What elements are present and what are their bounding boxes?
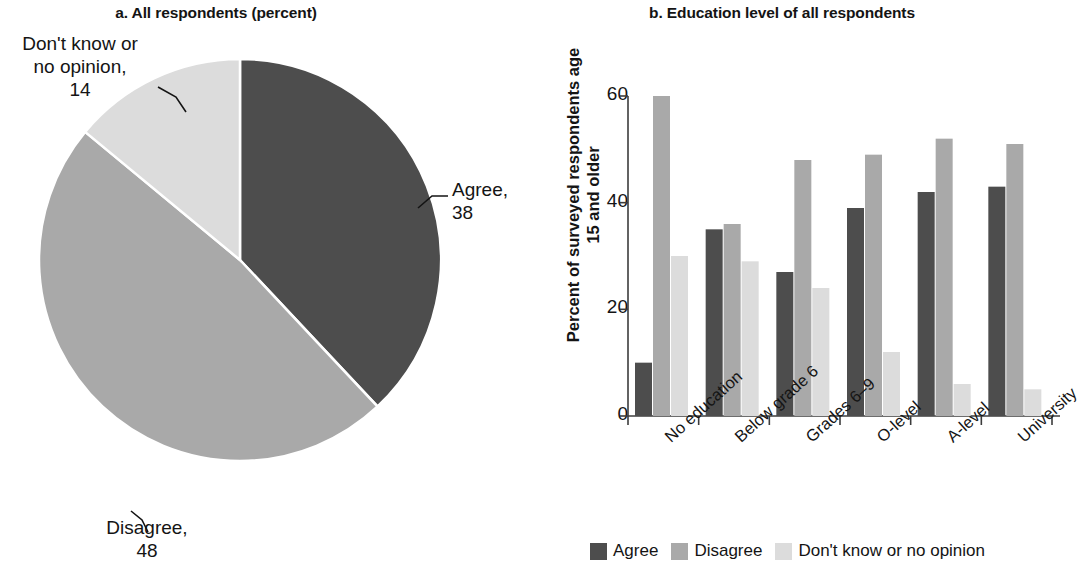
bar-chart-legend: AgreeDisagreeDon't know or no opinion	[590, 541, 985, 561]
panel-b-bar-chart: b. Education level of all respondents Pe…	[532, 0, 1064, 571]
pie-label-dont-know-line1: Don't know or	[22, 33, 138, 54]
pie-label-agree-value: 38	[452, 201, 542, 224]
pie-label-agree: Agree, 38	[452, 178, 542, 224]
legend-swatch-icon	[590, 543, 607, 560]
bar	[812, 288, 829, 416]
bar-svg	[532, 0, 1064, 571]
legend-swatch-icon	[671, 543, 688, 560]
legend-label: Don't know or no opinion	[798, 541, 985, 561]
legend-swatch-icon	[775, 543, 792, 560]
bar-chart: Percent of surveyed respondents age 15 a…	[532, 0, 1064, 571]
bar	[671, 256, 688, 416]
pie-label-dont-know: Don't know or no opinion, 14	[4, 32, 156, 101]
pie-label-dont-know-line2: no opinion,	[4, 55, 156, 78]
bar	[988, 187, 1005, 416]
pie-label-disagree: Disagree, 48	[82, 516, 212, 562]
pie-label-disagree-value: 48	[82, 539, 212, 562]
pie-label-dont-know-value: 14	[4, 78, 156, 101]
pie-label-disagree-text: Disagree,	[106, 517, 187, 538]
bar	[635, 363, 652, 416]
legend-item[interactable]: Don't know or no opinion	[775, 541, 985, 561]
legend-item[interactable]: Agree	[590, 541, 658, 561]
legend-label: Disagree	[694, 541, 762, 561]
bar	[1006, 144, 1023, 416]
pie-chart	[38, 58, 442, 462]
bar	[936, 139, 953, 416]
bar	[653, 96, 670, 416]
legend-item[interactable]: Disagree	[671, 541, 762, 561]
pie-label-agree-text: Agree,	[452, 179, 508, 200]
bar	[883, 352, 900, 416]
legend-label: Agree	[613, 541, 658, 561]
bar	[742, 261, 759, 416]
pie-svg	[38, 58, 442, 462]
bar	[918, 192, 935, 416]
panel-a-pie-chart: a. All respondents (percent) Don't know …	[0, 0, 532, 571]
panel-a-title: a. All respondents (percent)	[6, 4, 426, 22]
